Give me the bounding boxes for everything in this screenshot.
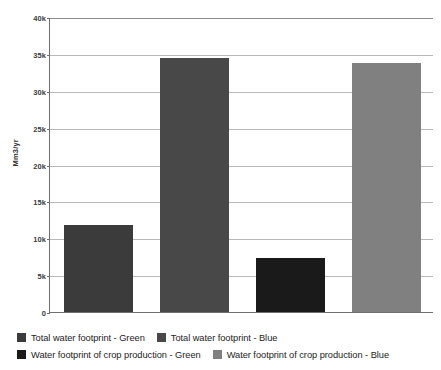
legend-swatch-icon (213, 350, 222, 359)
plot-area (49, 18, 433, 313)
legend-item-crop-green[interactable]: Water footprint of crop production - Gre… (17, 350, 201, 360)
legend-label: Water footprint of crop production - Gre… (31, 350, 201, 360)
y-axis-tick-mark (47, 18, 51, 19)
legend-item-crop-blue[interactable]: Water footprint of crop production - Blu… (213, 350, 389, 360)
y-axis-tick-mark (47, 166, 51, 167)
bar[interactable] (352, 63, 421, 312)
legend-label: Total water footprint - Green (31, 333, 145, 343)
legend-label: Water footprint of crop production - Blu… (227, 350, 389, 360)
y-axis-tick-mark (47, 276, 51, 277)
legend-swatch-icon (17, 333, 26, 342)
legend-swatch-icon (17, 350, 26, 359)
y-axis-tick-label: 40k (2, 14, 46, 23)
y-axis-tick-label: 20k (2, 161, 46, 170)
legend-label: Total water footprint - Blue (171, 333, 278, 343)
legend-row-1: Total water footprint - Green Total wate… (17, 329, 429, 346)
y-axis-tick-label: 0 (2, 309, 46, 318)
y-axis-tick-mark (47, 55, 51, 56)
bar[interactable] (64, 225, 133, 312)
y-axis-tick-mark (47, 202, 51, 203)
legend-swatch-icon (157, 333, 166, 342)
y-axis-tick-mark (47, 92, 51, 93)
legend-item-total-blue[interactable]: Total water footprint - Blue (157, 333, 278, 343)
y-axis-tick-mark (47, 239, 51, 240)
y-axis-tick-label: 30k (2, 87, 46, 96)
bar-chart: Mm3/yr 40k35k30k25k20k15k10k5k0 Total wa… (0, 0, 441, 370)
y-axis-tick-label: 10k (2, 235, 46, 244)
y-axis-tick-mark (47, 313, 51, 314)
y-axis-tick-label: 25k (2, 124, 46, 133)
y-axis-tick-mark (47, 129, 51, 130)
y-axis-tick-label: 5k (2, 272, 46, 281)
y-axis-tick-label: 35k (2, 50, 46, 59)
bar[interactable] (256, 258, 325, 312)
y-axis-tick-label: 15k (2, 198, 46, 207)
chart-legend: Total water footprint - Green Total wate… (17, 329, 429, 363)
legend-row-2: Water footprint of crop production - Gre… (17, 346, 429, 363)
gridline (50, 55, 433, 56)
bar[interactable] (160, 58, 229, 312)
legend-item-total-green[interactable]: Total water footprint - Green (17, 333, 145, 343)
gridline (50, 18, 433, 19)
